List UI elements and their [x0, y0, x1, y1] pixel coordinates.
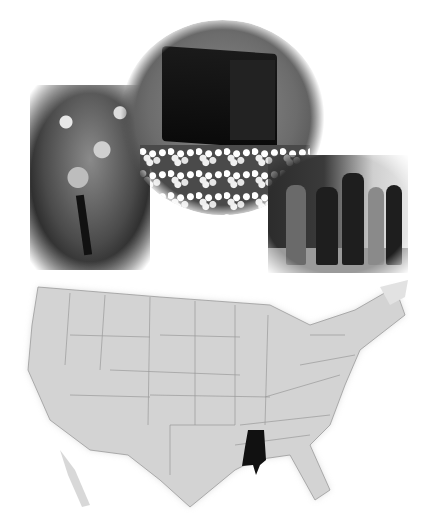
cotton-picker-side: [230, 60, 275, 140]
baja-peninsula: [60, 450, 90, 507]
person-figure: [286, 185, 306, 265]
person-figure: [342, 173, 364, 265]
us-outline: [28, 287, 405, 507]
person-figure: [316, 187, 338, 265]
people-walking-photo: [268, 155, 408, 273]
us-map: [10, 275, 410, 523]
tree-trunk: [76, 195, 92, 256]
person-figure: [368, 187, 384, 265]
person-figure: [386, 185, 402, 265]
